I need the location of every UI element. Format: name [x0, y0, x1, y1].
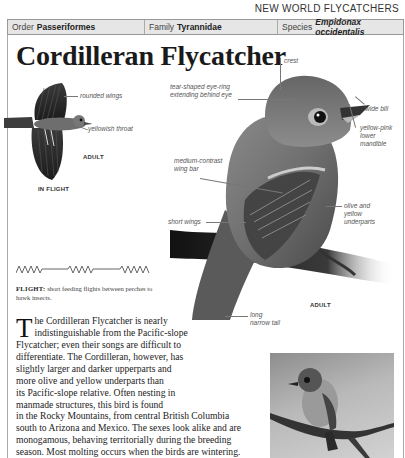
leader-line: [280, 58, 281, 90]
family-cell: Family Tyrannidae: [145, 20, 278, 34]
drop-cap: T: [16, 317, 33, 339]
flight-label: FLIGHT:: [16, 285, 45, 292]
callout-mandible-2: lower: [360, 132, 376, 140]
description-line: more olive and yellow underparts than: [16, 375, 270, 387]
callout-crest: crest: [284, 57, 298, 65]
leader-line: [238, 99, 294, 100]
family-label: Family: [149, 22, 174, 32]
callout-short-wings: short wings: [168, 218, 201, 226]
callout-mandible-1: yellow-pink: [360, 124, 392, 132]
description-line: slightly larger and darker upperparts an…: [16, 363, 270, 375]
order-label: Order: [12, 22, 34, 32]
bird-in-flight-illustration: [2, 80, 92, 190]
callout-wing-bar-1: medium-contrast: [174, 157, 222, 165]
species-cell: Species Empidonax occidentalis: [278, 20, 403, 34]
description-line: season. Most molting occurs when the bir…: [16, 446, 270, 458]
callout-underparts-1: olive and: [344, 202, 370, 210]
species-value: Empidonax occidentalis: [315, 17, 403, 37]
description-line: Flycatcher; even their songs are difficu…: [16, 339, 270, 351]
callout-underparts-2: yellow: [344, 210, 362, 218]
bird-photo-inset: [270, 353, 394, 458]
family-value: Tyrannidae: [177, 22, 222, 32]
section-title: NEW WORLD FLYCATCHERS: [255, 3, 399, 14]
callout-underparts-3: underparts: [344, 218, 375, 226]
description-line: manmade structures, this bird is found: [16, 399, 270, 411]
flight-pattern-icon: [16, 264, 152, 274]
description-line: differentiate. The Cordilleran, however,…: [16, 351, 270, 363]
callout-yellowish-throat: yellowish throat: [88, 125, 133, 133]
callout-wide-bill: wide bill: [365, 105, 388, 113]
description-line: south to Arizona and Mexico. The sexes l…: [16, 422, 270, 434]
callout-eye-ring-1: tear-shaped eye-ring: [170, 83, 230, 91]
callout-mandible-3: mandible: [360, 140, 386, 148]
adult-age-label: ADULT: [310, 302, 331, 308]
leader-line: [326, 206, 342, 207]
species-description: T he Cordilleran Flycatcher is nearly in…: [16, 315, 270, 458]
flight-caption: FLIGHT: short feeding flights between pe…: [16, 285, 166, 302]
description-line: indistinguishable from the Pacific-slope: [16, 327, 270, 339]
in-flight-caption: IN FLIGHT: [38, 186, 69, 192]
callout-rounded-wings: rounded wings: [80, 92, 122, 100]
description-line: in the Rocky Mountains, from central Bri…: [16, 410, 270, 422]
description-line: its Pacific-slope relative. Often nestin…: [16, 387, 270, 399]
description-line: he Cordilleran Flycatcher is nearly: [16, 315, 270, 327]
order-cell: Order Passeriformes: [8, 20, 145, 34]
flight-age-label: ADULT: [83, 154, 104, 160]
leader-line: [206, 222, 246, 223]
leader-line: [64, 96, 78, 97]
taxonomy-bar: Order Passeriformes Family Tyrannidae Sp…: [7, 19, 404, 35]
order-value: Passeriformes: [37, 22, 96, 32]
species-label: Species: [282, 22, 312, 32]
callout-eye-ring-2: extending behind eye: [170, 91, 232, 99]
perched-bird-photo: [270, 353, 394, 458]
callout-wing-bar-2: wing bar: [174, 165, 199, 173]
description-line: monogamous, behaving territorially durin…: [16, 434, 270, 446]
page-right-border: [403, 35, 404, 458]
